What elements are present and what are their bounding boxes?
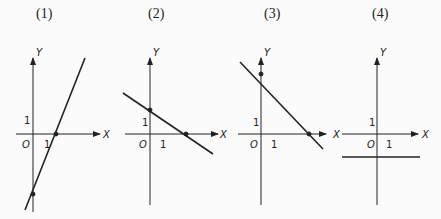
svg-text:1: 1 — [386, 139, 392, 150]
svg-text:1: 1 — [369, 117, 375, 128]
svg-text:X: X — [421, 129, 430, 140]
graph-3 — [238, 58, 326, 205]
svg-text:Y: Y — [36, 47, 43, 58]
svg-text:X: X — [332, 129, 341, 140]
svg-text:Y: Y — [264, 47, 271, 58]
svg-text:Y: Y — [380, 47, 387, 58]
svg-text:O: O — [250, 139, 258, 150]
svg-text:1: 1 — [44, 139, 50, 150]
graph-2 — [123, 58, 218, 205]
svg-text:1: 1 — [271, 139, 277, 150]
graph-1 — [16, 58, 100, 212]
svg-text:X: X — [102, 129, 111, 140]
svg-text:1: 1 — [142, 117, 148, 128]
svg-text:O: O — [22, 139, 30, 150]
svg-text:Y: Y — [153, 47, 160, 58]
svg-text:O: O — [367, 139, 375, 150]
svg-text:1: 1 — [24, 115, 30, 126]
svg-text:X: X — [219, 129, 228, 140]
graph-4 — [342, 58, 420, 205]
svg-text:1: 1 — [160, 139, 166, 150]
graphs: YXO11 YO11 YXO11 YXXO11 — [0, 0, 441, 219]
svg-text:1: 1 — [253, 117, 259, 128]
svg-text:O: O — [139, 139, 147, 150]
